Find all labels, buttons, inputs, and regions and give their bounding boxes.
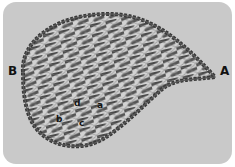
label-cell-d: d [74, 99, 80, 108]
label-point-b: B [8, 65, 17, 77]
label-cell-c: c [79, 119, 84, 128]
figure-card: B A d a b c [3, 2, 232, 164]
label-cell-b: b [56, 115, 62, 124]
embroidery-illustration [3, 2, 232, 164]
label-cell-a: a [97, 101, 103, 110]
label-point-a: A [220, 65, 229, 77]
lattice-fill [3, 2, 232, 164]
